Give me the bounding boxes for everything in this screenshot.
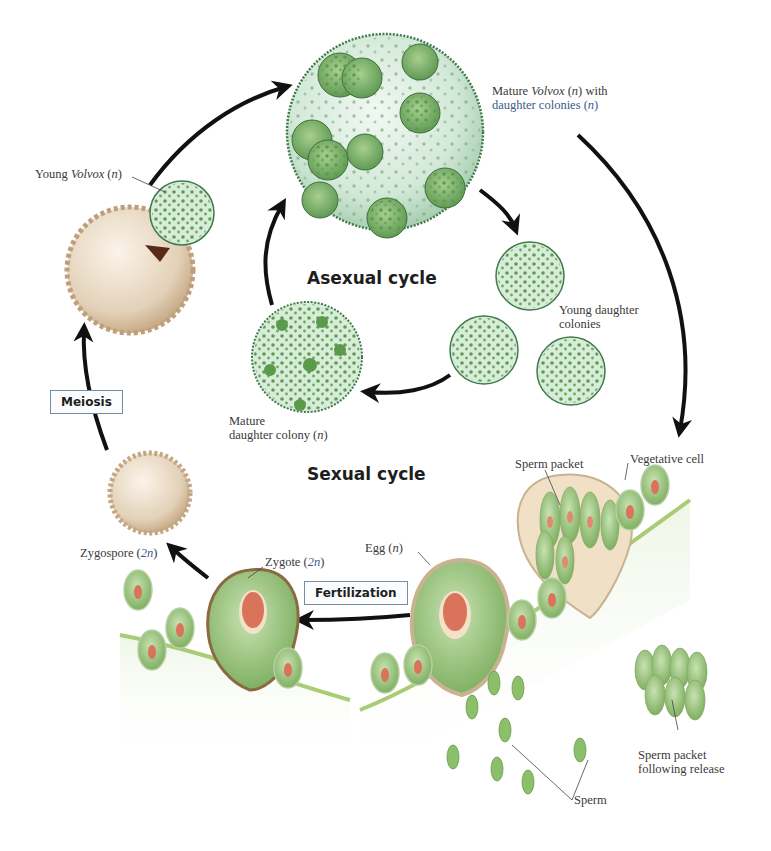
fertilization-box: Fertilization [304, 581, 408, 605]
label-egg: Egg (n) [365, 541, 403, 555]
zygospore [110, 453, 190, 533]
arrow-egg-to-zygote [302, 615, 410, 620]
arrow-daughters-to-mature-daughter [368, 375, 450, 393]
arrow-zygote-to-zygospore [172, 548, 208, 578]
sexual-cycle-heading: Sexual cycle [307, 464, 426, 484]
label-vegetative-cell: Vegetative cell [630, 452, 704, 466]
mature-daughter-colony [252, 302, 362, 412]
mature-volvox-colony [287, 34, 483, 238]
meiosis-box: Meiosis [50, 390, 123, 414]
label-young-volvox: Young Volvox (n) [35, 167, 122, 181]
label-sperm-packet: Sperm packet [515, 457, 583, 471]
asexual-cycle-heading: Asexual cycle [307, 268, 437, 288]
arrow-mature-daughter-to-mature [265, 205, 282, 305]
volvox-life-cycle-diagram: Asexual cycle Sexual cycle Meiosis Ferti… [0, 0, 771, 851]
label-young-daughter-colonies: Young daughter colonies [559, 303, 639, 331]
label-sperm: Sperm [574, 793, 607, 807]
diagram-illustration [0, 0, 771, 851]
arrow-mature-to-daughters [480, 190, 515, 228]
label-sperm-packet-release: Sperm packet following release [638, 748, 724, 776]
label-mature-volvox: Mature Volvox (n) with daughter colonies… [492, 84, 608, 112]
label-zygospore: Zygospore (2n) [80, 546, 157, 560]
label-zygote: Zygote (2n) [265, 555, 324, 569]
sperm-packet-released [635, 645, 707, 720]
arrow-young-to-mature [150, 87, 285, 185]
label-mature-daughter-colony: Mature daughter colony (n) [229, 414, 328, 442]
young-volvox-hatching [67, 181, 214, 333]
